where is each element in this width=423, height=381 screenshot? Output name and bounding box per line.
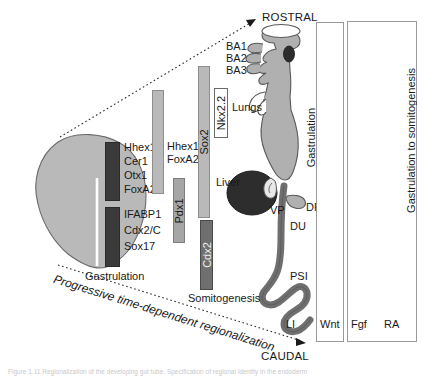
stage-label-gastrulation: Gastrulation (85, 270, 144, 282)
anterior-endoderm-gene-bar (105, 142, 120, 201)
posterior-endoderm-gene-bar (105, 207, 120, 267)
somitogenesis-panel-label: Gastrulation to somitogenesis (405, 68, 417, 213)
figure-caption: Figure 1.11 Regionalization of the devel… (8, 368, 416, 379)
figure-regionalization-of-gut-tube: Hhex1 Cer1 Otx1 FoxA2 IFABP1 Cdx2/C Sox1… (0, 0, 423, 381)
gene-label-otx1: Otx1 (124, 169, 147, 181)
domain-label-sox2: Sox2 (198, 129, 210, 154)
rostral-opening (262, 25, 300, 38)
domain-label-nkx22: Nkx2.2 (215, 96, 227, 130)
label-vp: VP (270, 204, 285, 216)
domain-label-pdx1: Pdx1 (173, 198, 185, 223)
hhex1-foxa2-domain-bar (152, 90, 164, 194)
label-liver: Liver (216, 176, 240, 188)
dark-vesicle (284, 46, 295, 62)
gastrulation-panel-label: Gastrulation (305, 108, 317, 167)
rostral-label: ROSTRAL (262, 11, 318, 23)
gradient-label-fgf: Fgf (351, 318, 367, 330)
label-ba3: BA3 (226, 64, 247, 76)
label-lungs: Lungs (232, 101, 262, 113)
label-li: LI (286, 318, 295, 330)
gradient-label-wnt: Wnt (320, 318, 340, 330)
label-ba2: BA2 (226, 52, 247, 64)
domain-label-cdx2: Cdx2 (201, 242, 213, 268)
gene-label-sox17: Sox17 (124, 240, 155, 252)
gene-label-cer1: Cer1 (124, 155, 148, 167)
domain-label-hhex1: Hhex1 (167, 140, 199, 152)
label-ba1: BA1 (226, 40, 247, 52)
label-du: DU (290, 220, 306, 232)
nkx22-label-box: Nkx2.2 (214, 88, 228, 138)
stage-label-somitogenesis: Somitogenesis (188, 292, 260, 304)
sox2-domain-bar: Sox2 (198, 66, 210, 218)
gene-label-ifabp1: IFABP1 (124, 208, 161, 220)
label-psi: PSI (290, 270, 308, 282)
gradient-label-ra: RA (384, 318, 399, 330)
caudal-label: CAUDAL (261, 350, 309, 362)
pdx1-domain-bar: Pdx1 (173, 178, 185, 243)
gastrulation-panel (316, 22, 344, 342)
cdx2-domain-bar: Cdx2 (200, 220, 213, 290)
gene-label-cdx2c: Cdx2/C (124, 224, 161, 236)
domain-label-foxa2: FoxA2 (167, 153, 199, 165)
dorsal-pancreas-bud (286, 195, 305, 208)
